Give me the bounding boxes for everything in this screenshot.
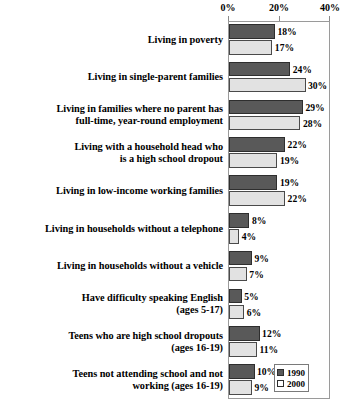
bar-value-label: 28% [300,116,322,131]
bar-group-1990: 5% [229,289,337,304]
bar-value-label: 18% [275,24,297,39]
bar-1990 [229,137,285,152]
bar-value-label: 19% [277,153,299,168]
bar-1990 [229,289,242,304]
bar-1990 [229,175,277,190]
bar-1990 [229,251,252,266]
bar-group-2000: 19% [229,153,337,168]
x-axis-tick-label: 0% [221,2,236,13]
bar-2000 [229,153,277,168]
bar-group-1990: 18% [229,24,337,39]
bar-group-1990: 19% [229,175,337,190]
bar-value-label: 12% [260,326,282,341]
bar-group-2000: 11% [229,342,337,357]
bar-value-label: 9% [252,251,269,266]
category-label-line: Teens not attending school and not [73,368,223,380]
category-label: Living in poverty [8,21,228,59]
bar-2000 [229,380,252,395]
category-label-line: Living in single-parent families [88,71,223,83]
row-bars: 12%11% [229,323,337,361]
bar-group-1990: 24% [229,62,337,77]
bar-group-1990: 8% [229,213,337,228]
category-label: Living in households without a vehicle [8,248,228,286]
row-bars: 5%6% [229,286,337,324]
bar-value-label: 11% [257,342,278,357]
bar-value-label: 24% [290,62,312,77]
bar-group-2000: 4% [229,229,337,244]
bar-group-2000: 6% [229,305,337,320]
bar-group-1990: 12% [229,326,337,341]
category-label-line: (ages 16-19) [171,342,223,354]
bar-value-label: 5% [242,289,259,304]
legend-item: 1990 [277,367,305,378]
bar-1990 [229,364,255,379]
bar-group-1990: 22% [229,137,337,152]
bar-2000 [229,342,257,357]
bar-value-label: 4% [239,229,256,244]
legend-label: 2000 [287,379,305,389]
bar-2000 [229,305,244,320]
bar-group-1990: 29% [229,100,337,115]
legend-item: 2000 [277,378,305,389]
bar-1990 [229,100,303,115]
bar-group-1990: 9% [229,251,337,266]
bar-value-label: 30% [306,78,328,93]
row-bars: 29%28% [229,97,337,135]
category-label-line: Living in poverty [148,34,223,46]
bar-group-2000: 22% [229,191,337,206]
legend-swatch-icon [277,369,284,376]
category-label-line: Living in households without a telephone [45,223,223,235]
category-label: Teens who are high school dropouts(ages … [8,323,228,361]
chart-row: Living in single-parent families24%30% [0,59,337,97]
bar-value-label: 29% [303,100,325,115]
bar-value-label: 19% [277,175,299,190]
chart-row: Teens who are high school dropouts(ages … [0,323,337,361]
bar-1990 [229,326,260,341]
row-bars: 9%7% [229,248,337,286]
bar-1990 [229,62,290,77]
bar-value-label: 8% [249,213,266,228]
bar-value-label: 9% [252,380,269,395]
row-bars: 24%30% [229,59,337,97]
chart-row: Living in families where no parent hasfu… [0,97,337,135]
chart-row: Have difficulty speaking English(ages 5-… [0,286,337,324]
category-label-line: Living in families where no parent has [57,103,224,115]
category-label: Living in single-parent families [8,59,228,97]
bar-value-label: 6% [244,305,261,320]
chart-legend: 19902000 [274,364,309,392]
category-label: Have difficulty speaking English(ages 5-… [8,286,228,324]
legend-swatch-icon [277,380,284,387]
category-label-line: (ages 5-17) [176,304,223,316]
bar-2000 [229,267,247,282]
chart-row: Living in poverty18%17% [0,21,337,59]
bar-value-label: 22% [285,137,307,152]
chart-rows: Living in poverty18%17%Living in single-… [0,21,337,399]
bar-2000 [229,229,239,244]
bar-value-label: 17% [272,40,294,55]
row-bars: 8%4% [229,210,337,248]
bar-value-label: 22% [285,191,307,206]
bar-group-2000: 28% [229,116,337,131]
bar-group-2000: 17% [229,40,337,55]
row-bars: 22%19% [229,134,337,172]
bar-group-2000: 30% [229,78,337,93]
category-label: Living in families where no parent hasfu… [8,97,228,135]
chart-row: Living in households without a telephone… [0,210,337,248]
category-label-line: Teens who are high school dropouts [68,330,223,342]
x-axis-tick-labels: 0%20%40% [228,2,330,16]
bar-2000 [229,40,272,55]
bar-2000 [229,78,306,93]
bar-1990 [229,213,249,228]
chart-row: Living in low-income working families19%… [0,172,337,210]
x-axis-tick-label: 20% [269,2,289,13]
category-label-line: is a high school dropout [120,153,223,165]
category-label: Living with a household head whois a hig… [8,134,228,172]
bar-2000 [229,116,300,131]
category-label-line: Have difficulty speaking English [82,292,223,304]
row-bars: 18%17% [229,21,337,59]
chart-row: Living with a household head whois a hig… [0,134,337,172]
category-label-line: Living in low-income working families [56,185,223,197]
x-axis-tick-label: 40% [320,2,340,13]
bar-2000 [229,191,285,206]
